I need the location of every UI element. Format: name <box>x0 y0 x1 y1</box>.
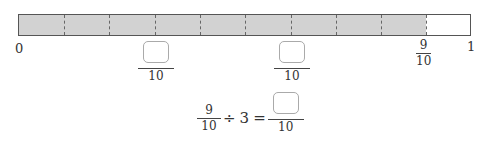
denominator: 10 <box>201 120 216 133</box>
denominator: 10 <box>416 55 431 68</box>
equals-sign: = <box>253 109 266 127</box>
label-one: 1 <box>467 40 475 53</box>
divider <box>426 15 427 35</box>
label-zero: 0 <box>15 42 23 55</box>
equation-result-fraction: 10 <box>268 92 304 134</box>
fraction-bar <box>18 14 471 36</box>
answer-box-1[interactable] <box>143 41 169 63</box>
equation: 9 10 ÷ 3 = 10 <box>197 92 304 134</box>
divider <box>245 15 246 35</box>
equation-left-fraction: 9 10 <box>197 104 221 133</box>
denominator: 10 <box>148 70 163 83</box>
divide-sign: ÷ <box>223 109 236 127</box>
numerator: 9 <box>420 39 428 52</box>
answer-box-result[interactable] <box>273 92 299 114</box>
divider <box>64 15 65 35</box>
answer-fraction-1: 10 <box>138 41 174 83</box>
divider <box>155 15 156 35</box>
divider <box>381 15 382 35</box>
denominator: 10 <box>278 121 293 134</box>
denominator: 10 <box>284 70 299 83</box>
divider <box>336 15 337 35</box>
divider <box>291 15 292 35</box>
divider <box>200 15 201 35</box>
label-nine-tenths: 9 10 <box>416 39 431 68</box>
answer-fraction-2: 10 <box>274 41 310 83</box>
numerator: 9 <box>205 104 213 117</box>
divisor: 3 <box>240 109 250 127</box>
shaded-region <box>19 15 426 35</box>
answer-box-2[interactable] <box>279 41 305 63</box>
divider <box>109 15 110 35</box>
